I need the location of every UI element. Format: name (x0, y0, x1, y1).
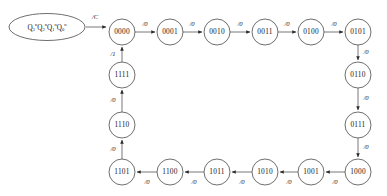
edge-label-0011-0100: /0 (283, 20, 290, 27)
edge-label-0101-0110: /0 (362, 48, 369, 55)
edge-label-1010-1011: /0 (238, 178, 245, 185)
state-node-1011[interactable]: 1011 (204, 159, 230, 185)
edge-0011-0100: /0 (278, 20, 296, 32)
state-node-0000[interactable]: 0000 (109, 19, 135, 45)
state-node-0111[interactable]: 0111 (345, 112, 371, 138)
state-node-0011[interactable]: 0011 (252, 19, 278, 45)
edge-label-1100-1101: /0 (143, 178, 150, 185)
state-node-label-1000: 1000 (350, 167, 366, 176)
state-node-label-1100: 1100 (162, 167, 177, 176)
edge-label-0110-0111: /0 (362, 94, 369, 101)
edge-0100-0101: /0 (324, 20, 343, 32)
state-node-1100[interactable]: 1100 (157, 159, 183, 185)
state-node-1010[interactable]: 1010 (252, 159, 278, 185)
edge-label-1001-1010: /0 (285, 178, 292, 185)
edge-label-0111-1000: /0 (362, 143, 369, 150)
edge-1101-1110: /0 (109, 140, 122, 159)
edge-1010-1011: /0 (232, 172, 252, 185)
state-node-label-1011: 1011 (209, 167, 224, 176)
state-node-1111[interactable]: 1111 (109, 62, 135, 88)
edge-1111-0000: /1 (109, 47, 122, 62)
state-node-0100[interactable]: 0100 (298, 19, 324, 45)
edge-label-0010-0011: /0 (236, 20, 243, 27)
state-node-label-0010: 0010 (209, 27, 225, 36)
edge-1100-1101: /0 (137, 172, 157, 185)
state-node-label-1001: 1001 (303, 167, 319, 176)
edge-label-0100-0101: /0 (330, 20, 337, 27)
state-node-1101[interactable]: 1101 (109, 159, 135, 185)
state-node-label-0001: 0001 (162, 27, 178, 36)
state-node-0010[interactable]: 0010 (204, 19, 230, 45)
start-arrow: /C (86, 13, 106, 27)
state-node-label-0011: 0011 (257, 27, 272, 36)
state-node-0110[interactable]: 0110 (345, 62, 371, 88)
state-node-label-0000: 0000 (114, 27, 130, 36)
edge-0000-0001: /0 (135, 20, 155, 32)
state-node-0001[interactable]: 0001 (157, 19, 183, 45)
edge-1000-1001: /0 (326, 172, 345, 185)
state-node-label-0101: 0101 (350, 27, 366, 36)
state-node-label-1111: 1111 (115, 70, 130, 79)
edge-label-0000-0001: /0 (141, 20, 148, 27)
state-node-1110[interactable]: 1110 (109, 112, 135, 138)
edge-label-1111-0000: /1 (109, 50, 115, 57)
edge-label-1011-1100: /0 (190, 178, 197, 185)
edge-label-1101-1110: /0 (109, 145, 116, 152)
state-node-0101[interactable]: 0101 (345, 19, 371, 45)
state-node-label-0110: 0110 (350, 70, 365, 79)
state-node-label-1101: 1101 (114, 167, 129, 176)
edge-0111-1000: /0 (358, 138, 369, 157)
edge-label-1110-1111: /0 (109, 96, 116, 103)
edge-0010-0011: /0 (230, 20, 250, 32)
edge-0101-0110: /0 (358, 45, 369, 60)
state-node-1000[interactable]: 1000 (345, 159, 371, 185)
edge-label-0001-0010: /0 (188, 20, 195, 27)
edge-1011-1100: /0 (185, 172, 204, 185)
edge-0001-0010: /0 (183, 20, 202, 32)
edge-1110-1111: /0 (109, 90, 122, 112)
edge-0110-0111: /0 (358, 88, 369, 110)
state-diagram-canvas: Q3nQ2nQ1nQ0n /C /0 /0 /0 /0 /0 /0 /0 /0 (0, 0, 387, 196)
state-node-label-0100: 0100 (303, 27, 319, 36)
state-node-1001[interactable]: 1001 (298, 159, 324, 185)
start-arrow-label: /C (91, 13, 99, 20)
register-state-ellipse: Q3nQ2nQ1nQ0n (9, 14, 85, 41)
state-node-label-0111: 0111 (350, 120, 365, 129)
state-node-label-1110: 1110 (114, 120, 129, 129)
edge-1001-1010: /0 (280, 172, 298, 185)
edge-label-1000-1001: /0 (331, 178, 338, 185)
state-node-label-1010: 1010 (257, 167, 273, 176)
